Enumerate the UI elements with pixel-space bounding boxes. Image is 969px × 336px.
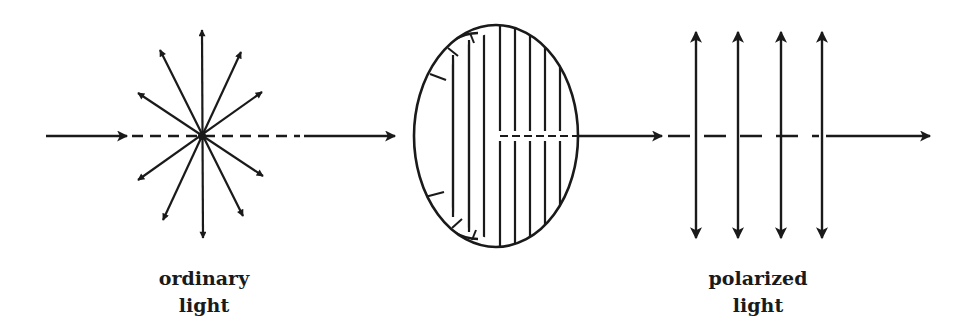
polarizing-filter	[409, 20, 579, 252]
ordinary-light-label: ordinary light	[124, 265, 284, 319]
ordinary-light-label-line1: ordinary	[124, 265, 284, 292]
polarized-light-label: polarized light	[678, 265, 838, 319]
polarized-light-label-line1: polarized	[678, 265, 838, 292]
polarized-light-label-line2: light	[678, 292, 838, 319]
ordinary-light-label-line2: light	[124, 292, 284, 319]
ordinary-light-starburst	[138, 30, 263, 238]
